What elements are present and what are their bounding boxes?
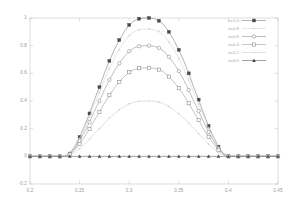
series-n-0-0 — [28, 154, 280, 157]
y-tick-label: 0 — [2, 153, 27, 158]
legend-label: n=0.8 — [222, 26, 239, 31]
x-tick-label: 0.35 — [167, 188, 191, 193]
legend-key-dot-icon — [241, 25, 267, 32]
legend-entry: n=0.0 — [222, 57, 267, 64]
legend-label: n=1.0 — [222, 18, 239, 23]
legend-entry: n=0.4 — [222, 41, 267, 48]
legend-entry: n=1.0 — [222, 17, 267, 24]
legend-entry: n=0.8 — [222, 25, 267, 32]
x-tick-label: 0.3 — [117, 188, 141, 193]
legend-key-open-square-icon — [241, 41, 267, 48]
x-tick-label: 0.45 — [266, 188, 290, 193]
series-n-0-2 — [29, 100, 279, 157]
legend-label: n=0.4 — [222, 42, 239, 47]
y-tick-label: 0.2 — [2, 126, 27, 131]
y-tick-label: 0.8 — [2, 43, 27, 48]
y-tick-label: 0.6 — [2, 70, 27, 75]
x-tick-label: 0.4 — [216, 188, 240, 193]
legend-entry: n=0.2 — [222, 49, 267, 56]
chart-container: 10.80.60.40.20-0.2 0.20.250.30.350.40.45… — [0, 0, 290, 213]
y-tick-label: 0.4 — [2, 98, 27, 103]
legend-key-filled-square-icon — [241, 17, 267, 24]
legend-label: n=0.6 — [222, 34, 239, 39]
legend-key-filled-triangle-icon — [241, 57, 267, 64]
y-tick-label: 1 — [2, 15, 27, 20]
legend-key-open-circle-icon — [241, 33, 267, 40]
x-tick-label: 0.2 — [18, 188, 42, 193]
series-n-0-4 — [28, 66, 279, 158]
legend-key-dot-small-icon — [241, 49, 267, 56]
x-tick-label: 0.25 — [68, 188, 92, 193]
legend-label: n=0.0 — [222, 58, 239, 63]
y-tick-label: -0.2 — [2, 181, 27, 186]
legend-label: n=0.2 — [222, 50, 239, 55]
legend-entry: n=0.6 — [222, 33, 267, 40]
